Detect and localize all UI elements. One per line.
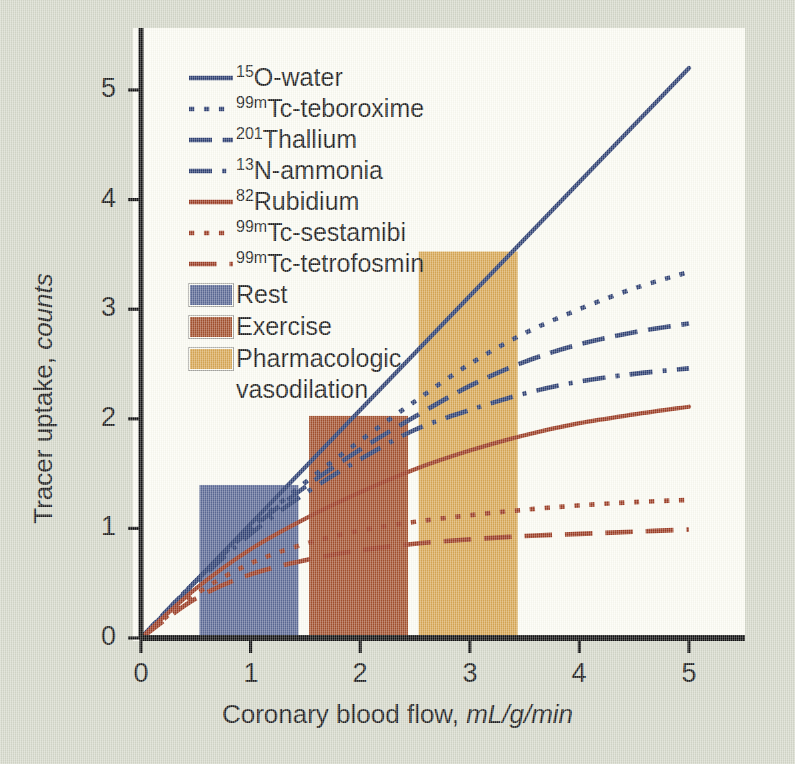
legend-label-superscript: 13 xyxy=(236,156,254,173)
legend-label: Rest xyxy=(236,281,287,307)
legend-label: 99mTc-tetrofosmin xyxy=(236,250,424,276)
legend-label: 99mTc-sestamibi xyxy=(236,219,406,245)
ytick-label: 3 xyxy=(82,294,116,321)
legend-label: Exercise xyxy=(236,313,332,339)
y-axis-title-text: Tracer uptake, xyxy=(28,350,58,524)
x-axis-title: Coronary blood flow, mL/g/min xyxy=(0,699,795,730)
legend-label-text: Tc-sestamibi xyxy=(267,218,406,246)
xtick-label: 0 xyxy=(124,660,158,687)
ytick-label: 2 xyxy=(82,404,116,431)
legend-label-text: Rubidium xyxy=(254,187,360,215)
legend-item-99mtc-teboroxime[interactable]: 99mTc-teboroxime xyxy=(160,93,490,124)
legend-item-99mtc-tetrofosmin[interactable]: 99mTc-tetrofosmin xyxy=(160,248,490,279)
legend-item-201thallium[interactable]: 201Thallium xyxy=(160,124,490,155)
legend-item-15o-water[interactable]: 15O-water xyxy=(160,62,490,93)
legend-item-82rubidium[interactable]: 82Rubidium xyxy=(160,186,490,217)
legend-item-pharmacologic-vasodilation[interactable]: Pharmacologic xyxy=(160,343,490,375)
xtick-label: 5 xyxy=(672,660,706,687)
legend-label-superscript: 201 xyxy=(236,125,263,142)
legend-color-swatch xyxy=(189,284,233,306)
legend-item-13n-ammonia[interactable]: 13N-ammonia xyxy=(160,155,490,186)
x-axis-title-units: mL/g/min xyxy=(466,699,573,729)
chart-legend: 15O-water99mTc-teboroxime201Thallium13N-… xyxy=(160,62,490,407)
legend-item-continuation: vasodilation xyxy=(160,375,490,407)
xtick-label: 2 xyxy=(343,660,377,687)
legend-item-99mtc-sestamibi[interactable]: 99mTc-sestamibi xyxy=(160,217,490,248)
legend-label-superscript: 99m xyxy=(236,249,267,266)
legend-label-superscript: 99m xyxy=(236,94,267,111)
legend-item-rest[interactable]: Rest xyxy=(160,279,490,311)
legend-label: 99mTc-teboroxime xyxy=(236,95,424,121)
ytick-label: 0 xyxy=(82,623,116,650)
legend-label: Pharmacologic xyxy=(236,345,401,371)
x-axis-title-text: Coronary blood flow, xyxy=(222,699,466,729)
legend-label-superscript: 15 xyxy=(236,63,254,80)
legend-label: 82Rubidium xyxy=(236,188,359,214)
legend-label-superscript: 82 xyxy=(236,187,254,204)
legend-label: 15O-water xyxy=(236,64,343,90)
xtick-label: 4 xyxy=(562,660,596,687)
ytick-label: 1 xyxy=(82,513,116,540)
legend-label-text: Tc-tetrofosmin xyxy=(267,249,424,277)
figure-container: 0 1 2 3 4 5 0 1 2 3 4 5 Coronary blood f… xyxy=(0,0,795,764)
legend-label-text: O-water xyxy=(254,63,343,91)
y-axis-title: Tracer uptake, counts xyxy=(28,189,59,609)
legend-color-swatch xyxy=(189,316,233,338)
legend-label-superscript: 99m xyxy=(236,218,267,235)
ytick-label: 5 xyxy=(82,75,116,102)
xtick-label: 3 xyxy=(453,660,487,687)
ytick-label: 4 xyxy=(82,185,116,212)
legend-item-exercise[interactable]: Exercise xyxy=(160,311,490,343)
xtick-label: 1 xyxy=(234,660,268,687)
y-axis-title-units: counts xyxy=(28,273,58,350)
legend-color-swatch xyxy=(189,348,233,370)
legend-label-text: N-ammonia xyxy=(254,156,383,184)
legend-label-text: Tc-teboroxime xyxy=(267,94,424,122)
legend-label: 13N-ammonia xyxy=(236,157,383,183)
legend-label-line2: vasodilation xyxy=(236,375,368,404)
legend-label: 201Thallium xyxy=(236,126,357,152)
legend-label-text: Thallium xyxy=(263,125,357,153)
